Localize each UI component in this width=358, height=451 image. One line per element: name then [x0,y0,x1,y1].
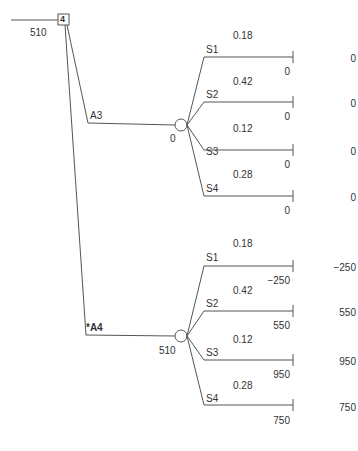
prob: 0.12 [233,334,252,345]
ev-a3: 0 [170,133,176,144]
payoff: 950 [250,369,290,380]
chance-node-a3[interactable] [175,119,187,131]
state-label: S4 [206,183,218,194]
result: 0 [320,98,356,109]
payoff: 0 [260,66,290,77]
payoff: 0 [260,205,290,216]
alt-label-a3: A3 [90,110,102,121]
result: 750 [310,402,356,413]
result: 0 [320,146,356,157]
prob: 0.18 [233,30,252,41]
state-label: S1 [206,252,218,263]
result: 0 [320,192,356,203]
chance-node-a4[interactable] [175,330,187,342]
result: 0 [320,53,356,64]
prob: 0.42 [233,76,252,87]
payoff: 550 [250,320,290,331]
prob: 0.18 [233,238,252,249]
result: −250 [310,262,356,273]
prob: 0.42 [233,285,252,296]
prob: 0.28 [233,380,252,391]
alt-label-a4: *A4 [86,322,103,333]
branch-a4[interactable] [65,25,175,336]
branch-a3[interactable] [67,25,175,125]
payoff: −250 [250,275,290,286]
state-label: S4 [206,393,218,404]
decision-tree-lines [0,0,358,451]
payoff: 750 [250,415,290,426]
payoff: 0 [260,111,290,122]
state-label: S2 [206,89,218,100]
state-label: S3 [206,146,218,157]
result: 950 [310,356,356,367]
prob: 0.28 [233,169,252,180]
state-label: S3 [206,347,218,358]
state-label: S2 [206,298,218,309]
result: 550 [310,307,356,318]
decision-node-id: 4 [60,14,65,25]
state-label: S1 [206,44,218,55]
root-value: 510 [30,27,47,38]
prob: 0.12 [233,123,252,134]
ev-a4: 510 [159,345,176,356]
payoff: 0 [260,159,290,170]
